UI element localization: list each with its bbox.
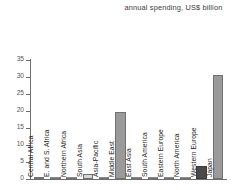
bar[interactable]: [99, 177, 110, 179]
bar[interactable]: [213, 75, 224, 179]
y-axis-ticks: 05101520253035: [0, 0, 30, 190]
bar-category-label: Northern Africa: [60, 131, 68, 177]
x-axis-line: [30, 179, 227, 180]
bar-category-label: Japan: [206, 158, 214, 177]
bar-category-label: E. and S. Africa: [43, 129, 51, 177]
y-tick-mark: [26, 111, 30, 112]
bar-category-label: South America: [141, 132, 149, 177]
bar[interactable]: [148, 177, 159, 179]
bar-category-label: East Asia: [125, 148, 133, 177]
bar[interactable]: [131, 177, 142, 179]
y-tick-label: 35: [0, 56, 24, 63]
bar[interactable]: [34, 177, 45, 179]
bar[interactable]: [180, 177, 191, 179]
bar-category-label: Central Africa: [27, 135, 35, 177]
bar[interactable]: [50, 177, 61, 179]
y-tick-mark: [26, 60, 30, 61]
bar-category-label: South Asia: [76, 144, 84, 177]
bar-category-label: Eastern Europe: [157, 129, 165, 177]
y-tick-label: 30: [0, 73, 24, 80]
bar-series: Central AfricaE. and S. AfricaNorthern A…: [31, 60, 226, 179]
y-tick-label: 5: [0, 158, 24, 165]
bar-group: Japan: [210, 60, 226, 179]
y-tick-label: 0: [0, 175, 24, 182]
y-tick-mark: [26, 94, 30, 95]
bar-category-label: Asia-Pacific: [92, 141, 100, 177]
bar-category-label: Western Europe: [190, 127, 198, 177]
y-tick-label: 10: [0, 141, 24, 148]
bar[interactable]: [66, 177, 77, 179]
y-tick-mark: [26, 128, 30, 129]
y-tick-mark: [26, 77, 30, 78]
y-tick-label: 20: [0, 107, 24, 114]
bar-chart: annual spending, US$ billion 05101520253…: [0, 0, 233, 190]
chart-title: annual spending, US$ billion: [116, 3, 231, 12]
bar[interactable]: [164, 177, 175, 179]
bar-category-label: North America: [173, 133, 181, 177]
bar-category-label: Middle East: [108, 141, 116, 177]
y-tick-label: 15: [0, 124, 24, 131]
y-tick-label: 25: [0, 90, 24, 97]
y-tick-mark: [26, 179, 30, 180]
